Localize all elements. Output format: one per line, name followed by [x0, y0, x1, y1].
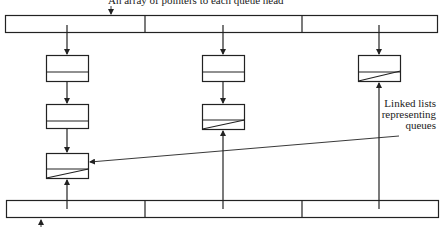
annotation-leaders: [41, 6, 399, 227]
queue-node: [47, 56, 89, 82]
queue-diagram: An array of pointers to each queue head …: [0, 0, 442, 227]
linked-lists-label: Linked lists representing queues: [356, 98, 436, 131]
queue-node: [203, 56, 245, 82]
queue-node-tail: [359, 56, 401, 82]
queue-node: [47, 105, 89, 129]
queue-1: [47, 25, 89, 209]
head-array-label: An array of pointers to each queue head: [108, 0, 284, 6]
linked-lists-label-line3: queues: [356, 120, 436, 131]
head-pointer-array: [6, 16, 438, 33]
queue-node-tail: [47, 154, 89, 179]
queue-2: [203, 25, 245, 209]
queue-node-tail: [203, 105, 245, 130]
